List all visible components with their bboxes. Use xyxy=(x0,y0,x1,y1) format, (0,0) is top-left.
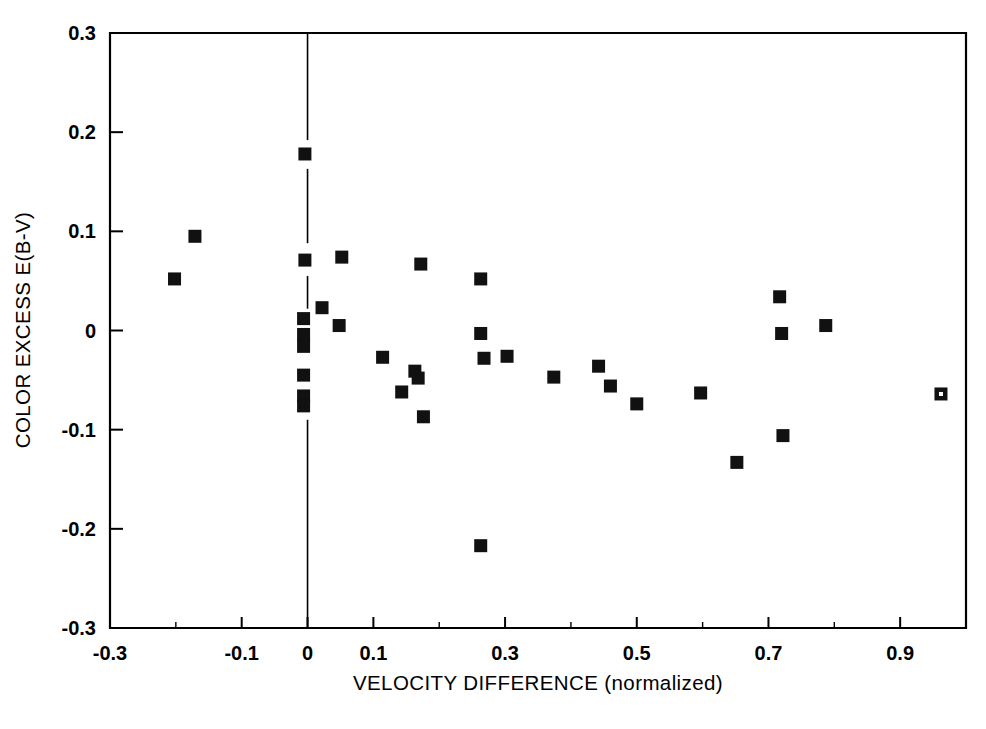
data-point xyxy=(474,539,487,552)
x-tick-label: 0.7 xyxy=(755,642,783,664)
data-point xyxy=(474,327,487,340)
y-tick-label: 0.3 xyxy=(68,22,96,44)
x-tick-label: 0.5 xyxy=(623,642,651,664)
data-point xyxy=(335,251,348,264)
data-point-center xyxy=(939,392,943,396)
x-tick-label: 0.1 xyxy=(359,642,387,664)
x-axis-tick-labels: -0.3-0.100.10.30.50.70.9 xyxy=(93,642,914,664)
x-axis-ticks xyxy=(110,617,966,628)
y-axis-tick-labels: 0.30.20.10-0.1-0.2-0.3 xyxy=(62,22,96,639)
data-point xyxy=(395,385,408,398)
x-tick-label: -0.3 xyxy=(93,642,127,664)
data-point xyxy=(775,327,788,340)
data-point xyxy=(776,429,789,442)
data-point xyxy=(316,301,329,314)
data-point xyxy=(297,399,310,412)
data-point xyxy=(694,386,707,399)
y-axis-title: COLOR EXCESS E(B-V) xyxy=(11,212,34,449)
data-point xyxy=(592,360,605,373)
y-tick-label: -0.1 xyxy=(62,419,96,441)
x-tick-label: -0.1 xyxy=(224,642,258,664)
scatter-plot-figure: -0.3-0.100.10.30.50.70.9 0.30.20.10-0.1-… xyxy=(0,0,986,729)
data-point xyxy=(417,410,430,423)
x-tick-label: 0.3 xyxy=(491,642,519,664)
data-point xyxy=(478,352,491,365)
y-tick-label: 0.2 xyxy=(68,121,96,143)
data-point xyxy=(819,319,832,332)
data-point xyxy=(412,372,425,385)
x-tick-label: 0.9 xyxy=(886,642,914,664)
data-point xyxy=(188,230,201,243)
x-axis-title: VELOCITY DIFFERENCE (normalized) xyxy=(353,671,723,694)
data-point xyxy=(298,147,311,160)
x-tick-label: 0 xyxy=(302,642,313,664)
data-point xyxy=(474,272,487,285)
data-point xyxy=(297,328,310,341)
data-point xyxy=(414,258,427,271)
axes-frame xyxy=(110,33,966,628)
y-tick-label: -0.2 xyxy=(62,518,96,540)
data-point xyxy=(630,397,643,410)
data-point xyxy=(376,351,389,364)
data-point-group xyxy=(168,147,947,552)
data-point xyxy=(604,380,617,393)
data-point xyxy=(730,456,743,469)
data-point xyxy=(333,319,346,332)
data-point xyxy=(773,290,786,303)
data-point xyxy=(547,371,560,384)
data-point xyxy=(501,350,514,363)
y-tick-label: 0.1 xyxy=(68,220,96,242)
plot-canvas: -0.3-0.100.10.30.50.70.9 0.30.20.10-0.1-… xyxy=(0,0,986,729)
data-point xyxy=(297,369,310,382)
data-point xyxy=(298,254,311,267)
y-axis-ticks xyxy=(110,33,123,628)
y-tick-label: 0 xyxy=(85,320,96,342)
data-point xyxy=(297,312,310,325)
y-tick-label: -0.3 xyxy=(62,617,96,639)
data-point xyxy=(297,340,310,353)
data-point xyxy=(168,272,181,285)
